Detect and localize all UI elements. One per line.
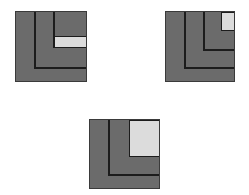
nested-square-figure-3 — [89, 119, 160, 189]
vertical-divider-line — [108, 120, 110, 174]
highlight-region — [221, 12, 235, 31]
horizontal-divider-line — [34, 67, 87, 69]
highlight-region — [129, 120, 160, 157]
highlight-region — [54, 36, 87, 48]
vertical-divider-line — [184, 12, 186, 67]
horizontal-divider-line — [108, 174, 160, 176]
nested-square-figure-1 — [15, 11, 87, 82]
horizontal-divider-line — [203, 49, 235, 51]
vertical-divider-line — [34, 12, 36, 67]
vertical-divider-line — [203, 12, 205, 49]
horizontal-divider-line — [184, 67, 235, 69]
nested-square-figure-2 — [165, 11, 235, 82]
vertical-divider-line — [53, 12, 55, 48]
